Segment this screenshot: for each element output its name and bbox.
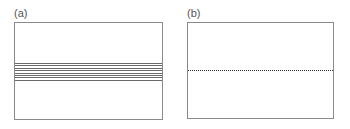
horizontal-line — [15, 70, 162, 71]
horizontal-line — [15, 73, 162, 74]
panel-b-box — [187, 22, 334, 119]
panel-b-label: (b) — [187, 7, 200, 19]
panel-a-label: (a) — [14, 7, 27, 19]
dotted-horizontal-line — [188, 70, 333, 71]
horizontal-line — [15, 80, 162, 81]
horizontal-line — [15, 75, 162, 76]
panel-a-box — [14, 22, 163, 120]
horizontal-line — [15, 65, 162, 66]
horizontal-line — [15, 77, 162, 78]
horizontal-line — [15, 63, 162, 64]
horizontal-line — [15, 68, 162, 69]
